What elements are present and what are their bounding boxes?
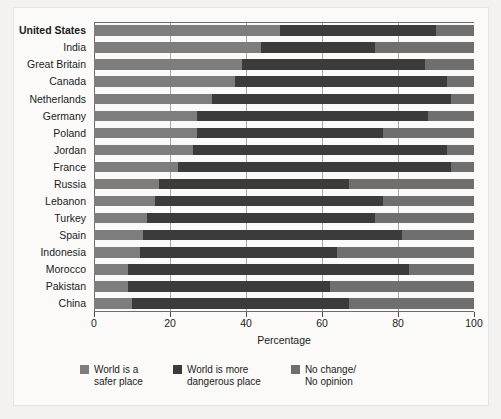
legend-label: World is a safer place [94,364,143,387]
category-label: Turkey [54,212,86,224]
bar-segment-nochange [428,111,474,122]
bar-segment-dangerous [197,111,429,122]
bar-row [94,111,474,122]
category-axis-labels: United StatesIndiaGreat BritainCanadaNet… [14,22,90,312]
bar-row [94,162,474,173]
category-label: Pakistan [46,280,86,292]
category-label: China [59,297,86,309]
bar-segment-nochange [425,59,474,70]
bar-segment-safer [94,94,212,105]
bar-segment-nochange [337,247,474,258]
stacked-bar [94,213,474,224]
legend-label: No change/ No opinion [305,364,356,387]
category-label: Indonesia [40,246,86,258]
bar-row [94,247,474,258]
bar-segment-nochange [349,179,474,190]
bar-segment-dangerous [280,25,436,36]
bar-segment-safer [94,162,178,173]
x-tick-label: 100 [465,317,483,329]
legend-item-nochange: No change/ No opinion [291,364,356,387]
bar-segment-dangerous [178,162,452,173]
legend-swatch-dangerous [173,365,182,374]
bar-row [94,230,474,241]
bar-segment-safer [94,213,147,224]
x-axis-title: Percentage [94,334,474,346]
bar-segment-safer [94,179,159,190]
bar-segment-nochange [409,264,474,275]
category-label: Lebanon [45,195,86,207]
bar-row [94,42,474,53]
plot-area [94,22,474,312]
bar-segment-nochange [436,25,474,36]
x-tick-label: 20 [164,317,176,329]
bar-segment-nochange [383,196,474,207]
bar-rows [94,22,474,312]
stacked-bar [94,128,474,139]
bar-segment-safer [94,128,197,139]
bar-segment-nochange [451,94,474,105]
stacked-bar [94,179,474,190]
category-label: Great Britain [27,58,86,70]
bar-row [94,76,474,87]
bar-segment-safer [94,76,235,87]
bar-row [94,128,474,139]
bar-segment-dangerous [128,264,409,275]
bar-segment-safer [94,196,155,207]
stacked-bar [94,42,474,53]
bar-segment-dangerous [193,145,448,156]
bar-segment-nochange [375,213,474,224]
bar-row [94,145,474,156]
bar-segment-safer [94,59,242,70]
stacked-bar [94,264,474,275]
stacked-bar [94,59,474,70]
bar-segment-dangerous [159,179,349,190]
legend-label: World is more dangerous place [187,364,261,387]
bar-segment-safer [94,298,132,309]
chart-legend: World is a safer placeWorld is more dang… [80,364,480,387]
stacked-bar [94,94,474,105]
stacked-bar [94,230,474,241]
category-label: Spain [59,229,86,241]
stacked-bar [94,196,474,207]
x-tick-label: 60 [316,317,328,329]
stacked-bar [94,76,474,87]
bar-segment-nochange [349,298,474,309]
bar-segment-dangerous [128,281,329,292]
x-tick-label: 40 [240,317,252,329]
bar-segment-safer [94,42,261,53]
bar-row [94,25,474,36]
bar-row [94,196,474,207]
bar-segment-safer [94,25,280,36]
category-label: Poland [53,127,86,139]
bar-segment-safer [94,247,140,258]
bar-segment-safer [94,145,193,156]
bar-segment-safer [94,111,197,122]
category-label: United States [19,24,86,36]
bar-segment-nochange [383,128,474,139]
bar-segment-nochange [447,145,474,156]
x-tick-label: 80 [392,317,404,329]
bar-row [94,281,474,292]
bar-segment-dangerous [140,247,338,258]
stacked-bar [94,25,474,36]
bar-row [94,298,474,309]
bar-segment-nochange [330,281,474,292]
bar-row [94,59,474,70]
bar-segment-safer [94,281,128,292]
stacked-bar [94,111,474,122]
bar-row [94,94,474,105]
bar-segment-safer [94,230,143,241]
bar-segment-dangerous [147,213,375,224]
bar-segment-nochange [375,42,474,53]
bar-segment-safer [94,264,128,275]
bar-segment-dangerous [212,94,451,105]
legend-item-dangerous: World is more dangerous place [173,364,261,387]
x-axis: 020406080100 [94,312,474,334]
stacked-bar [94,247,474,258]
bar-row [94,213,474,224]
bar-segment-dangerous [242,59,424,70]
category-label: Germany [43,110,86,122]
bar-segment-dangerous [235,76,448,87]
bar-segment-dangerous [132,298,349,309]
category-label: Russia [54,178,86,190]
